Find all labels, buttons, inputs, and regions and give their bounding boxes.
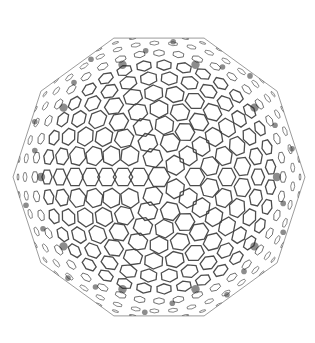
fullerene-molecule-illustration xyxy=(0,0,315,343)
cage-outline xyxy=(13,38,305,316)
image-canvas xyxy=(0,0,315,343)
